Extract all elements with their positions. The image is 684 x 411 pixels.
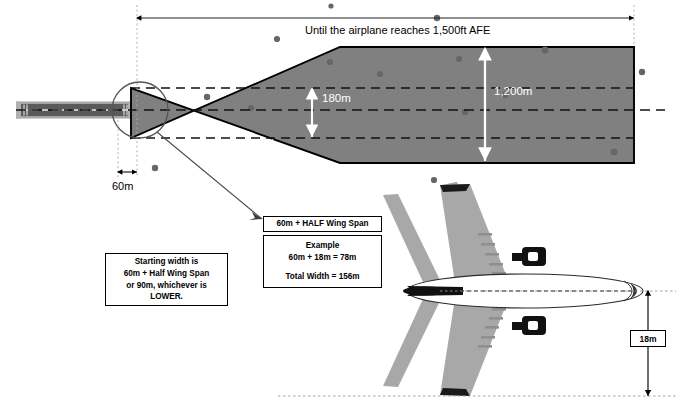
half-wing-span-box: 60m + HALF Wing Span	[263, 216, 382, 232]
half-wing-span-title: 60m + HALF Wing Span	[276, 218, 368, 230]
starting-width-note-box: Starting width is 60m + Half Wing Span o…	[105, 253, 228, 306]
starting-width-line-3: or 90m, whichever is	[126, 280, 207, 292]
engine-upper	[512, 247, 546, 266]
half-span-badge-label: 18m	[639, 334, 656, 344]
example-note-box: Example 60m + 18m = 78m Total Width = 15…	[263, 235, 382, 288]
inner-corridor-label: 180m	[322, 92, 351, 106]
upper-splay-percent-label: 12.5%	[242, 63, 276, 77]
engine-lower	[512, 316, 546, 335]
half-span-badge: 18m	[630, 330, 666, 347]
starting-width-line-2: 60m + Half Wing Span	[124, 268, 210, 280]
aircraft-plan-view	[383, 182, 643, 396]
example-total-width: Total Width = 156m	[285, 271, 359, 283]
lower-splay-percent-label: 12.5%	[242, 137, 276, 151]
example-heading: Example	[306, 240, 340, 252]
diagram-canvas	[0, 0, 684, 411]
starting-width-line-1: Starting width is	[135, 256, 199, 268]
start-width-label: 60m	[112, 180, 133, 193]
splay-length-note: Until the airplane reaches 1,500ft AFE	[305, 24, 490, 37]
splay-surface	[131, 47, 634, 163]
obstacle-splay-diagram: Until the airplane reaches 1,500ft AFE 1…	[0, 0, 684, 411]
full-width-label: 1,200m	[494, 85, 532, 99]
starting-width-line-4: LOWER.	[150, 291, 183, 303]
example-calculation: 60m + 18m = 78m	[289, 252, 357, 264]
